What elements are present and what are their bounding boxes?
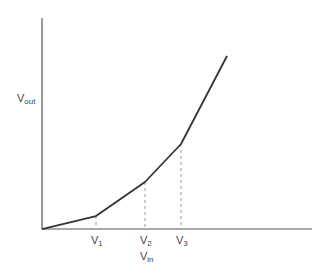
tick-label-v3: V3 [176, 234, 188, 248]
transfer-curve [42, 56, 227, 229]
tick-label-v1: V1 [91, 234, 103, 248]
tick-label-v2: V2 [140, 234, 152, 248]
transfer-curve-diagram: Vout V1 V2 V3 Vin [0, 0, 327, 273]
x-axis-label: Vin [140, 250, 154, 264]
y-axis-label: Vout [17, 92, 36, 106]
